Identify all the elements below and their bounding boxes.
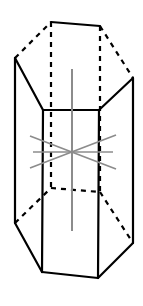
edge-vertical-front-left [42,110,43,272]
prism-silhouette-fill [15,22,133,278]
prism-body-fill [15,22,133,278]
hexagonal-prism-figure [0,0,143,306]
figure-container [0,0,143,306]
edge-vertical-front-right [98,110,99,278]
